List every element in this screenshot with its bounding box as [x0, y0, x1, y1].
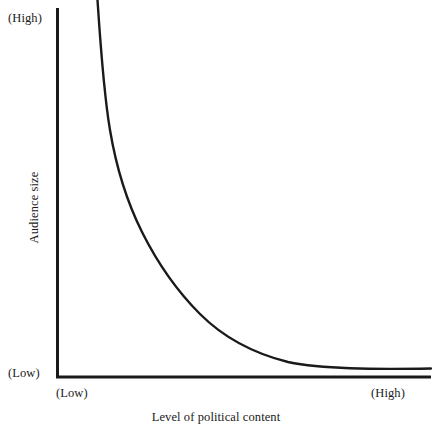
- plot-area: [0, 0, 432, 434]
- x-axis-title: Level of political content: [0, 410, 432, 425]
- x-axis-high-tick-label: (High): [371, 386, 405, 401]
- audience-size-curve: [98, 0, 432, 369]
- y-axis-high-tick-label: (High): [8, 11, 42, 26]
- chart-figure: (High) (Low) (Low) (High) Audience size …: [0, 0, 432, 434]
- y-axis-low-tick-label: (Low): [8, 366, 40, 381]
- y-axis-title: Audience size: [27, 158, 42, 258]
- x-axis-low-tick-label: (Low): [56, 386, 88, 401]
